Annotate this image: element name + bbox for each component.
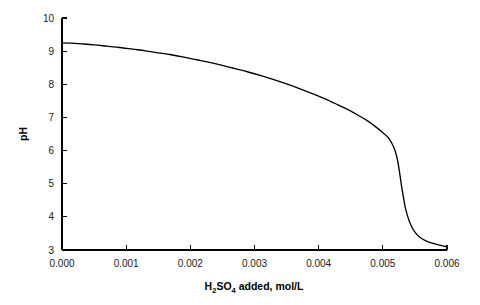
y-tick-label: 3 [48, 245, 54, 256]
y-axis-title: pH [17, 127, 29, 141]
x-tick-label: 0.006 [434, 258, 459, 269]
y-tick-label: 9 [48, 46, 54, 57]
y-tick-label: 7 [48, 112, 54, 123]
chart-page: 345678910 0.0000.0010.0020.0030.0040.005… [0, 0, 480, 305]
x-tick-label: 0.005 [370, 258, 395, 269]
y-tick-label: 6 [48, 145, 54, 156]
y-tick-label: 4 [48, 211, 54, 222]
x-tick-label: 0.003 [242, 258, 267, 269]
ph-titration-chart: 345678910 0.0000.0010.0020.0030.0040.005… [0, 0, 480, 305]
x-tick-label: 0.001 [114, 258, 139, 269]
x-tick-label: 0.004 [306, 258, 331, 269]
x-tick-label: 0.000 [49, 258, 74, 269]
x-tick-label: 0.002 [178, 258, 203, 269]
y-tick-label: 10 [43, 13, 55, 24]
y-tick-label: 8 [48, 79, 54, 90]
y-tick-label: 5 [48, 178, 54, 189]
